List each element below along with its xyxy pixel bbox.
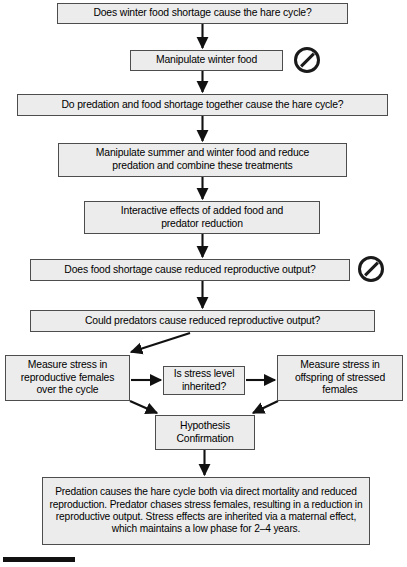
node-conclusion[interactable]: Predation causes the hare cycle both via… xyxy=(42,477,370,545)
node-predators-question[interactable]: Could predators cause reduced reproducti… xyxy=(30,310,375,332)
node-measure-stress-females[interactable]: Measure stress in reproductive females o… xyxy=(5,355,130,401)
no-entry-icon xyxy=(358,256,384,282)
node-measure-stress-females-label: Measure stress in reproductive females o… xyxy=(10,359,125,397)
node-food-shortage-question-label: Does food shortage cause reduced reprodu… xyxy=(35,264,345,277)
node-stress-inherited-question-label: Is stress level inherited? xyxy=(168,368,240,393)
node-interactive-effects[interactable]: Interactive effects of added food and pr… xyxy=(84,201,320,234)
arrow-predrepro-to-measureleft xyxy=(131,333,190,352)
node-conclusion-label: Predation causes the hare cycle both via… xyxy=(47,486,365,536)
node-winter-food-question-label: Does winter food shortage cause the hare… xyxy=(62,7,343,20)
node-hypothesis-confirmation[interactable]: Hypothesis Confirmation xyxy=(155,415,255,450)
node-interactive-effects-label: Interactive effects of added food and pr… xyxy=(89,205,315,230)
node-measure-stress-offspring[interactable]: Measure stress in offspring of stressed … xyxy=(277,355,403,401)
node-manipulate-winter-food-label: Manipulate winter food xyxy=(135,54,278,67)
node-hypothesis-confirmation-label: Hypothesis Confirmation xyxy=(160,420,250,445)
node-food-shortage-question[interactable]: Does food shortage cause reduced reprodu… xyxy=(30,259,350,281)
arrow-measureright-to-hypothesis xyxy=(253,401,278,413)
no-entry-icon xyxy=(294,47,320,73)
node-measure-stress-offspring-label: Measure stress in offspring of stressed … xyxy=(282,359,398,397)
node-predators-question-label: Could predators cause reduced reproducti… xyxy=(35,315,370,328)
node-winter-food-question[interactable]: Does winter food shortage cause the hare… xyxy=(57,3,348,24)
node-predation-food-question-label: Do predation and food shortage together … xyxy=(22,99,383,112)
flowchart-canvas: Does winter food shortage cause the hare… xyxy=(0,0,407,567)
caption-rule xyxy=(3,557,75,562)
arrow-measureleft-to-hypothesis xyxy=(130,401,157,413)
node-manipulate-summer-winter-label: Manipulate summer and winter food and re… xyxy=(63,147,342,172)
node-manipulate-winter-food[interactable]: Manipulate winter food xyxy=(130,50,283,71)
node-stress-inherited-question[interactable]: Is stress level inherited? xyxy=(163,366,245,395)
node-manipulate-summer-winter[interactable]: Manipulate summer and winter food and re… xyxy=(58,143,347,177)
node-predation-food-question[interactable]: Do predation and food shortage together … xyxy=(17,94,388,116)
